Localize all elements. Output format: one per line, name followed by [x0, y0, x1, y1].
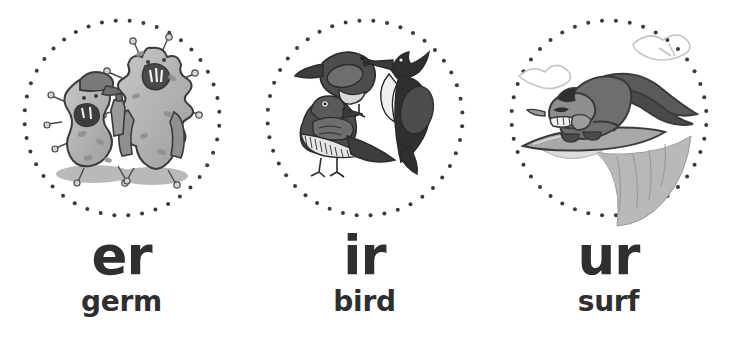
word-text-surf: surf — [487, 286, 730, 318]
phoneme-text-er: er — [0, 228, 243, 284]
birds-illustration — [265, 18, 465, 218]
phoneme-text-ur: ur — [487, 228, 730, 284]
illustration-circle-ur — [509, 18, 709, 218]
phoneme-text-ir: ir — [243, 228, 486, 284]
phonics-card-ur[interactable]: ur surf — [487, 0, 730, 350]
word-text-germ: germ — [0, 286, 243, 318]
germ-illustration — [22, 18, 222, 218]
phonics-card-ir[interactable]: ir bird — [243, 0, 486, 350]
illustration-circle-ir — [265, 18, 465, 218]
surfing-rabbit-illustration — [509, 18, 709, 218]
word-text-bird: bird — [243, 286, 486, 318]
bird-longtail — [300, 96, 395, 177]
card-labels-ur: ur surf — [487, 228, 730, 318]
illustration-circle-er — [22, 18, 222, 218]
phonics-card-er[interactable]: er germ — [0, 0, 243, 350]
card-labels-ir: ir bird — [243, 228, 486, 318]
card-labels-er: er germ — [0, 228, 243, 318]
phonics-chart: er germ — [0, 0, 730, 350]
